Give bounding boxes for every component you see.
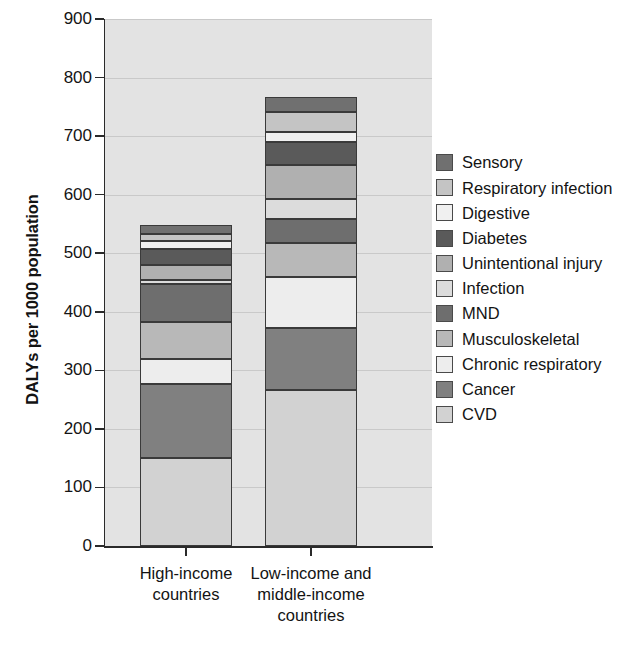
bar-segment[interactable] bbox=[140, 359, 232, 384]
legend-swatch-icon bbox=[436, 381, 453, 398]
bar-segment[interactable] bbox=[140, 384, 232, 458]
y-tick-mark bbox=[95, 135, 104, 137]
legend-item[interactable]: Cancer bbox=[436, 377, 642, 402]
legend-swatch-icon bbox=[436, 356, 453, 373]
y-tick-mark bbox=[95, 311, 104, 313]
y-tick-mark bbox=[95, 487, 104, 489]
stacked-bar[interactable] bbox=[265, 19, 357, 546]
stacked-bar[interactable] bbox=[140, 19, 232, 546]
legend-item[interactable]: Unintentional injury bbox=[436, 251, 642, 276]
legend-swatch-icon bbox=[436, 406, 453, 423]
bar-segment[interactable] bbox=[265, 328, 357, 391]
y-tick-label: 800 bbox=[22, 69, 92, 86]
legend-item[interactable]: MND bbox=[436, 301, 642, 326]
x-category-label-line: countries bbox=[221, 605, 401, 626]
legend-swatch-icon bbox=[436, 204, 453, 221]
bar-segment[interactable] bbox=[140, 241, 232, 249]
legend-swatch-icon bbox=[436, 154, 453, 171]
bar-segment[interactable] bbox=[265, 112, 357, 132]
bar-segment[interactable] bbox=[265, 165, 357, 200]
x-tick-mark bbox=[310, 547, 312, 556]
bar-segment[interactable] bbox=[265, 199, 357, 219]
legend-label: Digestive bbox=[462, 205, 530, 222]
y-tick-label: 300 bbox=[22, 361, 92, 378]
y-tick-label: 100 bbox=[22, 478, 92, 495]
legend-swatch-icon bbox=[436, 305, 453, 322]
x-category-label: Low-income andmiddle-incomecountries bbox=[221, 563, 401, 626]
legend-swatch-icon bbox=[436, 179, 453, 196]
legend-item[interactable]: CVD bbox=[436, 402, 642, 427]
y-tick-mark bbox=[95, 77, 104, 79]
y-tick-mark bbox=[95, 545, 104, 547]
legend-swatch-icon bbox=[436, 280, 453, 297]
y-tick-mark bbox=[95, 428, 104, 430]
bar-segment[interactable] bbox=[265, 219, 357, 243]
bar-segment[interactable] bbox=[140, 265, 232, 280]
legend-label: Diabetes bbox=[462, 230, 527, 247]
legend-label: Cancer bbox=[462, 381, 515, 398]
bar-segment[interactable] bbox=[140, 280, 232, 284]
chart-figure: DALYs per 1000 population 01002003004005… bbox=[0, 0, 642, 654]
bar-segment[interactable] bbox=[140, 234, 232, 241]
legend-item[interactable]: Musculoskeletal bbox=[436, 326, 642, 351]
y-tick-label: 500 bbox=[22, 244, 92, 261]
legend-item[interactable]: Infection bbox=[436, 276, 642, 301]
y-tick-label: 0 bbox=[22, 537, 92, 554]
bar-segment[interactable] bbox=[265, 277, 357, 328]
bar-segment[interactable] bbox=[265, 132, 357, 142]
bar-segment[interactable] bbox=[140, 249, 232, 265]
bar-segment[interactable] bbox=[140, 225, 232, 234]
y-tick-mark bbox=[95, 18, 104, 20]
y-tick-label: 200 bbox=[22, 420, 92, 437]
y-tick-label: 900 bbox=[22, 10, 92, 27]
bar-segment[interactable] bbox=[265, 97, 357, 111]
legend-label: Infection bbox=[462, 280, 524, 297]
y-tick-mark bbox=[95, 370, 104, 372]
legend-item[interactable]: Chronic respiratory bbox=[436, 352, 642, 377]
legend-swatch-icon bbox=[436, 230, 453, 247]
x-category-label-line: middle-income bbox=[221, 584, 401, 605]
legend-label: MND bbox=[462, 305, 500, 322]
legend-label: Musculoskeletal bbox=[462, 331, 579, 348]
x-axis-line bbox=[104, 546, 433, 548]
y-axis-tick-labels: 0100200300400500600700800900 bbox=[14, 0, 92, 654]
legend-item[interactable]: Sensory bbox=[436, 150, 642, 175]
legend-label: CVD bbox=[462, 406, 497, 423]
bar-segment[interactable] bbox=[265, 142, 357, 165]
legend-label: Chronic respiratory bbox=[462, 356, 601, 373]
legend-item[interactable]: Diabetes bbox=[436, 226, 642, 251]
chart-legend: SensoryRespiratory infectionDigestiveDia… bbox=[436, 150, 642, 427]
legend-label: Unintentional injury bbox=[462, 255, 602, 272]
y-tick-label: 700 bbox=[22, 127, 92, 144]
y-tick-label: 600 bbox=[22, 186, 92, 203]
legend-label: Respiratory infection bbox=[462, 180, 612, 197]
y-tick-mark bbox=[95, 252, 104, 254]
legend-swatch-icon bbox=[436, 255, 453, 272]
y-tick-label: 400 bbox=[22, 303, 92, 320]
bar-segment[interactable] bbox=[140, 284, 232, 322]
legend-swatch-icon bbox=[436, 330, 453, 347]
legend-item[interactable]: Digestive bbox=[436, 200, 642, 225]
bar-segment[interactable] bbox=[265, 390, 357, 546]
y-tick-mark bbox=[95, 194, 104, 196]
legend-item[interactable]: Respiratory infection bbox=[436, 175, 642, 200]
bar-segment[interactable] bbox=[265, 243, 357, 276]
bar-segment[interactable] bbox=[140, 458, 232, 546]
x-tick-mark bbox=[185, 547, 187, 556]
x-category-label-line: Low-income and bbox=[221, 563, 401, 584]
bar-segment[interactable] bbox=[140, 322, 232, 359]
legend-label: Sensory bbox=[462, 154, 523, 171]
